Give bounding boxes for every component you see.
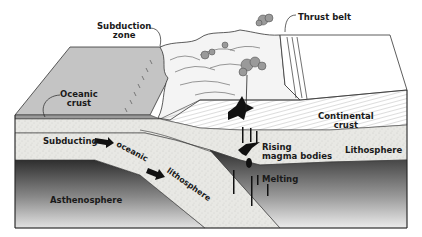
ocean-surface bbox=[15, 47, 185, 115]
label-subduction-zone: Subduction zone bbox=[97, 22, 151, 40]
label-thrust-belt: Thrust belt bbox=[298, 13, 351, 22]
label-rising-magma-line2: magma bodies bbox=[262, 152, 332, 161]
label-subducting: Subducting bbox=[43, 137, 98, 146]
thrust-belt-leader bbox=[285, 15, 296, 32]
label-oceanic-crust-line2: crust bbox=[60, 99, 98, 108]
label-oceanic-crust: Oceanic crust bbox=[60, 90, 98, 108]
oceanic-crust-edge bbox=[15, 115, 160, 119]
label-continental-crust: Continental crust bbox=[318, 112, 374, 130]
label-melting: Melting bbox=[262, 175, 298, 184]
label-subduction-zone-line2: zone bbox=[97, 31, 151, 40]
label-lithosphere: Lithosphere bbox=[345, 146, 402, 155]
subduction-zone-leader bbox=[150, 28, 161, 46]
label-rising-magma: Rising magma bodies bbox=[262, 143, 332, 161]
continent-surface bbox=[280, 35, 407, 100]
label-asthenosphere: Asthenosphere bbox=[50, 196, 122, 205]
label-continental-crust-line2: crust bbox=[318, 121, 374, 130]
